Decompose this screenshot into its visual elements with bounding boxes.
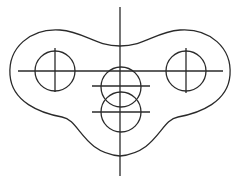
mechanical-drawing bbox=[0, 0, 241, 183]
upper-center-hole-circle bbox=[101, 67, 141, 107]
center-lines-group bbox=[18, 7, 223, 176]
